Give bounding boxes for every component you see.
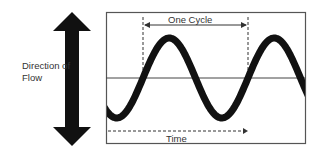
direction-of-flow-label: Direction of Flow <box>22 60 72 84</box>
one-cycle-label: One Cycle <box>168 14 212 26</box>
time-axis-label: Time <box>166 133 187 145</box>
